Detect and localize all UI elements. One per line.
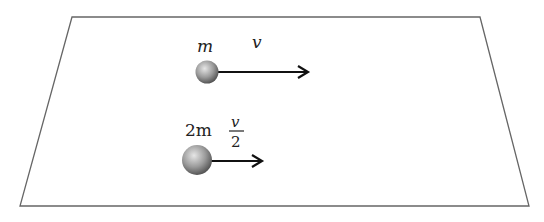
ball-mass-m xyxy=(196,61,219,84)
ball-1-group: m v xyxy=(196,32,309,84)
diagram-canvas: m v 2m v 2 xyxy=(0,0,544,222)
velocity-label-1: v xyxy=(252,32,262,52)
ball-mass-2m xyxy=(182,145,212,175)
mass-label-2: 2m xyxy=(185,120,212,140)
ball-2-group: 2m v 2 xyxy=(182,113,262,175)
surface-plane xyxy=(20,17,529,206)
velocity-label-2-numerator: v xyxy=(231,113,240,131)
velocity-label-2-denominator: 2 xyxy=(231,133,241,151)
mass-label-1: m xyxy=(197,36,213,56)
